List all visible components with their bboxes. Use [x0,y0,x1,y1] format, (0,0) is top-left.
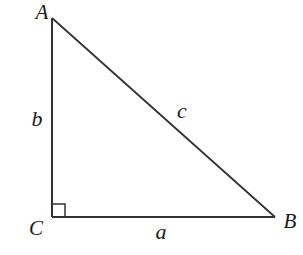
side-c-hypotenuse [52,18,275,217]
vertex-label-a: A [36,2,49,23]
right-angle-marker-icon [52,204,65,217]
side-label-a: a [156,221,167,243]
vertex-label-c: C [29,218,43,239]
triangle-svg [0,0,303,255]
vertex-label-b: B [284,211,297,232]
side-label-b: b [32,108,43,130]
side-label-c: c [177,100,187,122]
right-triangle-diagram: A B C b c a [0,0,303,255]
